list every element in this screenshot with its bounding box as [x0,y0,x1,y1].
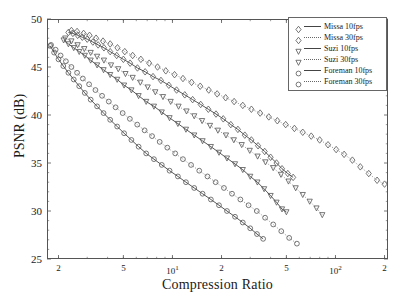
y-tick-label: 50 [16,14,42,24]
chart-figure: 504540353025 25101251022 Compression Rat… [0,0,405,305]
x-axis-tick-labels: 25101251022 [0,263,405,277]
legend-item: Foreman 30fps [293,76,383,87]
x-tick-label: 5 [271,263,301,273]
diamond-marker-icon [293,21,304,32]
legend-label: Foreman 30fps [324,77,372,86]
y-tick-label: 30 [16,206,42,216]
x-tick-label: 101 [157,263,187,276]
legend-line-sample [304,43,321,54]
legend-label: Foreman 10fps [324,66,372,75]
legend-line-sample [304,32,321,43]
legend-item: Foreman 10fps [293,65,383,76]
x-tick-label: 102 [320,263,350,276]
legend-line-sample [304,21,321,32]
legend-label: Missa 10fps [324,22,363,31]
series-foreman-30fps [49,43,300,247]
circle-marker-icon [293,76,304,87]
diamond-marker-icon [293,32,304,43]
legend: Missa 10fpsMissa 30fpsSuzi 10fpsSuzi 30f… [288,17,387,91]
legend-line-sample [304,76,321,87]
series-suzi-10fps [61,38,289,215]
legend-label: Suzi 10fps [324,44,358,53]
legend-line-sample [304,54,321,65]
circle-marker-icon [293,65,304,76]
legend-item: Suzi 10fps [293,43,383,54]
x-axis-title: Compression Ratio [47,277,388,293]
legend-line-sample [304,65,321,76]
legend-label: Suzi 30fps [324,55,358,64]
legend-label: Missa 30fps [324,33,363,42]
legend-item: Missa 10fps [293,21,383,32]
x-tick-label: 5 [108,263,138,273]
legend-item: Suzi 30fps [293,54,383,65]
y-axis-title: PSNR (dB) [12,51,28,201]
legend-item: Missa 30fps [293,32,383,43]
x-tick-label: 2 [370,263,400,273]
x-tick-label: 2 [207,263,237,273]
triangle-down-marker-icon [293,54,304,65]
series-foreman-10fps [48,43,266,241]
x-tick-label: 2 [44,263,74,273]
triangle-down-marker-icon [293,43,304,54]
